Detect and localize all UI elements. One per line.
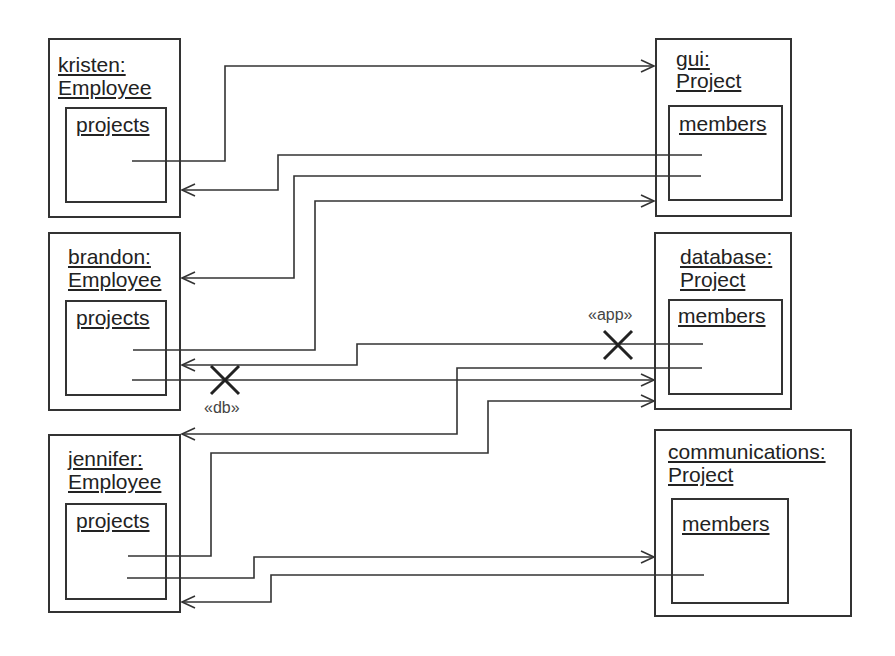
link-jennifer-to-database [128, 401, 654, 556]
object-jennifer-employee[interactable]: jennifer: Employee projects [48, 434, 181, 613]
slot-label: projects [76, 114, 150, 136]
slot-projects[interactable]: projects [65, 503, 167, 600]
object-class: Project [680, 269, 745, 291]
slot-label: projects [76, 307, 150, 329]
object-database-project[interactable]: database: Project members [654, 232, 792, 410]
link-communications-to-jennifer [182, 575, 704, 602]
object-gui-project[interactable]: gui: Project members [655, 38, 792, 217]
slot-members[interactable]: members [668, 105, 783, 201]
link-kristen-to-gui [132, 66, 654, 161]
object-title: communications: [668, 441, 826, 463]
slot-label: members [679, 113, 767, 135]
link-brandon-to-gui [133, 201, 654, 350]
object-class: Project [668, 464, 733, 486]
object-title: kristen: [58, 54, 126, 76]
broken-link-x-icon-app [604, 331, 632, 359]
slot-projects[interactable]: projects [65, 300, 167, 396]
object-class: Employee [58, 77, 151, 99]
slot-members[interactable]: members [668, 299, 783, 395]
object-communications-project[interactable]: communications: Project members [654, 429, 852, 617]
object-kristen-employee[interactable]: kristen: Employee projects [48, 38, 181, 218]
object-brandon-employee[interactable]: brandon: Employee projects [48, 232, 181, 411]
link-gui-to-brandon [182, 176, 701, 278]
slot-label: members [678, 305, 766, 327]
stereotype-app-label: «app» [588, 306, 633, 324]
slot-projects[interactable]: projects [65, 107, 167, 203]
object-title: jennifer: [68, 448, 143, 470]
object-class: Employee [68, 269, 161, 291]
object-class: Project [676, 70, 741, 92]
link-gui-to-kristen [182, 155, 702, 190]
object-title: gui: [676, 48, 710, 70]
link-database-to-brandon [182, 344, 703, 365]
stereotype-db-label: «db» [204, 399, 240, 417]
object-class: Employee [68, 471, 161, 493]
slot-members[interactable]: members [671, 498, 789, 604]
object-title: database: [680, 246, 772, 268]
slot-label: projects [76, 510, 150, 532]
object-title: brandon: [68, 246, 151, 268]
slot-label: members [682, 513, 770, 535]
